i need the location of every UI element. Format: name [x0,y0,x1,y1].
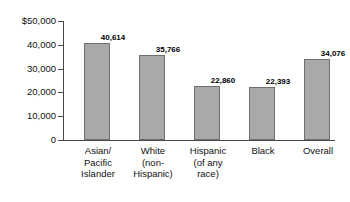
bar: 40,614 [84,43,110,140]
x-axis-category-label: White(non-Hispanic) [122,145,184,180]
x-axis-category-label: Black [232,145,294,157]
x-axis-category-line: Black [232,145,294,157]
x-axis-category-line: Overall [287,145,349,157]
x-axis-category-line: race) [177,168,239,180]
bar: 22,860 [194,86,220,140]
x-axis-category-label: Hispanic(of anyrace) [177,145,239,180]
x-axis-category-line: Asian/ [67,145,129,157]
bar-value-label: 35,766 [140,45,196,54]
x-axis-category-line: Islander [67,168,129,180]
bar-value-label: 22,393 [250,77,306,86]
bar: 34,076 [304,59,330,140]
bar: 22,393 [249,87,275,140]
bar: 35,766 [139,55,165,140]
bar-value-label: 40,614 [85,33,141,42]
x-axis-category-line: Pacific [67,157,129,169]
x-axis-category-line: White [122,145,184,157]
x-axis-category-line: Hispanic [177,145,239,157]
x-axis-category-line: Hispanic) [122,168,184,180]
bar-value-label: 22,860 [195,76,251,85]
x-axis-category-label: Asian/PacificIslander [67,145,129,180]
x-axis-category-line: (of any [177,157,239,169]
bar-value-label: 34,076 [305,49,350,58]
x-axis-category-label: Overall [287,145,349,157]
x-axis-category-line: (non- [122,157,184,169]
